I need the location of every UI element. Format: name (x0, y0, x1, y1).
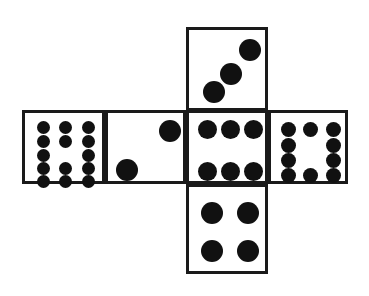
pip-dot (37, 162, 50, 175)
pip-dot (326, 122, 341, 137)
pip-dot (326, 153, 341, 168)
pip-dot (221, 162, 240, 181)
pip-dot (82, 162, 95, 175)
pip-dot (116, 159, 138, 181)
pip-dot (303, 122, 318, 137)
pip-dot (239, 39, 261, 61)
die-face-left-outer (22, 110, 105, 184)
pip-dot (281, 138, 296, 153)
pip-dot (59, 135, 72, 148)
pip-dot (326, 168, 341, 183)
pip-dot (59, 121, 72, 134)
pip-dot (37, 135, 50, 148)
pip-dot (220, 63, 242, 85)
die-face-left-inner (105, 110, 186, 184)
die-face-top (186, 27, 268, 111)
pip-dot (198, 162, 217, 181)
die-face-bottom (186, 184, 268, 274)
pip-dot (244, 120, 263, 139)
pip-dot (82, 175, 95, 188)
pip-dot (203, 81, 225, 103)
die-face-right (268, 110, 348, 184)
pip-dot (37, 149, 50, 162)
pip-dot (37, 121, 50, 134)
pip-dot (221, 120, 240, 139)
pip-dot (198, 120, 217, 139)
pip-dot (82, 149, 95, 162)
pip-dot (281, 168, 296, 183)
pip-dot (281, 122, 296, 137)
pip-dot (82, 121, 95, 134)
pip-dot (201, 202, 223, 224)
pip-dot (201, 240, 223, 262)
pip-dot (159, 120, 181, 142)
pip-dot (303, 168, 318, 183)
pip-dot (82, 135, 95, 148)
pip-dot (37, 175, 50, 188)
pip-dot (59, 175, 72, 188)
pip-dot (326, 138, 341, 153)
pip-dot (244, 162, 263, 181)
pip-dot (59, 162, 72, 175)
pip-dot (281, 153, 296, 168)
die-face-center (186, 110, 268, 184)
pip-dot (237, 240, 259, 262)
pip-dot (237, 202, 259, 224)
dice-net-diagram (0, 0, 369, 296)
